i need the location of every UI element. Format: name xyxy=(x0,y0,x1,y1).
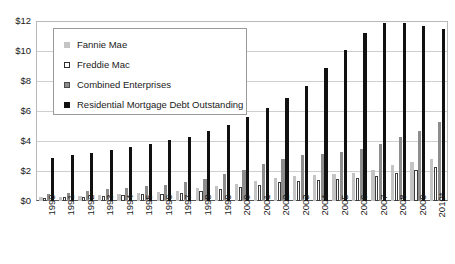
x-axis-cell: 1996 xyxy=(154,202,174,264)
x-axis-cell: 1991 xyxy=(57,202,77,264)
bar-rmdo xyxy=(324,68,327,202)
x-axis-tick-label: 2005 xyxy=(340,194,350,215)
y-axis-tick-label: $6 xyxy=(0,106,31,116)
x-axis-tick-label: 1999 xyxy=(223,194,233,215)
y-axis-tick-label: $2 xyxy=(0,166,31,176)
x-axis-tick-label: 2008 xyxy=(398,194,408,215)
bar-group xyxy=(330,22,350,201)
legend-item-label: Combined Enterprises xyxy=(77,80,171,90)
x-axis-tick-label: 1996 xyxy=(164,194,174,215)
bar-rmdo xyxy=(168,140,171,201)
bar-fannie xyxy=(371,170,374,202)
bar-group xyxy=(350,22,370,201)
legend-swatch-rmdo-icon xyxy=(64,102,70,108)
x-axis-cell: 2005 xyxy=(330,202,350,264)
bar-combined xyxy=(399,137,402,202)
y-axis-tick-label: $4 xyxy=(0,136,31,146)
x-axis-cell: 2003 xyxy=(291,202,311,264)
bar-fannie xyxy=(39,197,42,201)
x-axis-tick-label: 2009 xyxy=(418,194,428,215)
y-axis-tick-label: $8 xyxy=(0,76,31,86)
x-axis-cell: 2000 xyxy=(232,202,252,264)
bar-rmdo xyxy=(207,131,210,202)
bar-combined xyxy=(379,144,382,201)
bar-fannie xyxy=(117,194,120,202)
legend-item-label: Residential Mortgage Debt Outstanding xyxy=(77,100,243,110)
bar-fannie xyxy=(235,184,238,201)
bar-rmdo xyxy=(110,150,113,201)
bar-fannie xyxy=(352,173,355,202)
bar-group xyxy=(428,22,448,201)
bar-group xyxy=(252,22,272,201)
x-axis-tick-label: 1998 xyxy=(203,194,213,215)
bar-rmdo xyxy=(266,108,269,201)
bar-fannie xyxy=(157,192,160,201)
bar-fannie xyxy=(410,162,413,201)
bar-combined xyxy=(438,122,441,202)
y-axis-tick-label: $12 xyxy=(0,16,31,26)
legend-swatch-freddie-icon xyxy=(64,62,70,68)
legend-item-label: Freddie Mac xyxy=(77,60,130,70)
x-axis-cell: 2010* xyxy=(428,202,448,264)
x-axis-cell: 2006 xyxy=(350,202,370,264)
bar-combined xyxy=(418,131,421,202)
x-axis-cell: 2007 xyxy=(369,202,389,264)
x-axis-tick-label: 2004 xyxy=(320,194,330,215)
legend-item[interactable]: Freddie Mac xyxy=(64,55,246,75)
x-axis-tick-label: 1997 xyxy=(183,194,193,215)
x-axis-tick-label: 2001 xyxy=(262,194,272,215)
x-axis-tick-label: 1993 xyxy=(105,194,115,215)
legend-swatch-combined-icon xyxy=(64,82,70,88)
x-axis-cell: 2009 xyxy=(408,202,428,264)
legend-item[interactable]: Residential Mortgage Debt Outstanding xyxy=(64,95,246,115)
bar-fannie xyxy=(78,196,81,201)
y-axis-tick-label: $10 xyxy=(0,46,31,56)
bar-group xyxy=(408,22,428,201)
legend-item[interactable]: Combined Enterprises xyxy=(64,75,246,95)
bar-rmdo xyxy=(383,23,386,202)
bar-fannie xyxy=(391,165,394,201)
bar-fannie xyxy=(196,188,199,201)
x-axis-tick-label: 2002 xyxy=(281,194,291,215)
bar-group xyxy=(310,22,330,201)
x-axis-cell: 1990 xyxy=(37,202,57,264)
x-axis-tick-label: 2003 xyxy=(301,194,311,215)
bar-fannie xyxy=(215,186,218,201)
bar-group xyxy=(389,22,409,201)
bar-fannie xyxy=(332,174,335,201)
bar-fannie xyxy=(254,181,257,201)
x-axis-cell: 1993 xyxy=(96,202,116,264)
x-axis-tick-label: 2006 xyxy=(359,194,369,215)
bar-group xyxy=(291,22,311,201)
x-axis-cell: 1995 xyxy=(135,202,155,264)
x-axis-cell: 1994 xyxy=(115,202,135,264)
legend-item[interactable]: Fannie Mae xyxy=(64,35,246,55)
bar-fannie xyxy=(274,178,277,201)
x-axis-tick-label: 1992 xyxy=(86,194,96,215)
chart-legend: Fannie MaeFreddie MacCombined Enterprise… xyxy=(53,28,247,115)
bar-fannie xyxy=(430,159,433,201)
bar-fannie xyxy=(293,176,296,202)
bar-rmdo xyxy=(403,23,406,202)
x-axis-cell: 1998 xyxy=(193,202,213,264)
bar-rmdo xyxy=(227,125,230,202)
legend-item-label: Fannie Mae xyxy=(77,40,127,50)
bar-rmdo xyxy=(442,29,445,202)
bar-fannie xyxy=(176,191,179,202)
x-axis-tick-label: 1991 xyxy=(66,194,76,215)
bar-rmdo xyxy=(422,26,425,202)
x-axis-tick-label: 1994 xyxy=(125,194,135,215)
bar-fannie xyxy=(98,195,101,201)
x-axis-cell: 2001 xyxy=(252,202,272,264)
bar-rmdo xyxy=(285,98,288,202)
x-axis-cell: 1997 xyxy=(174,202,194,264)
legend-swatch-fannie-icon xyxy=(64,42,70,48)
bar-combined xyxy=(360,149,363,201)
x-axis-tick-label: 2000 xyxy=(242,194,252,215)
y-axis-labels: $12$10$8$6$4$2$0 xyxy=(0,0,34,264)
bar-rmdo xyxy=(305,86,308,202)
bar-rmdo xyxy=(129,147,132,201)
x-axis-tick-label: 2007 xyxy=(379,194,389,215)
x-axis-tick-label: 1990 xyxy=(47,194,57,215)
bar-rmdo xyxy=(246,117,249,201)
